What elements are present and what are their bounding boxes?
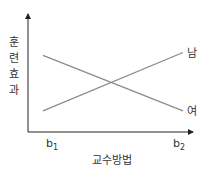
y-axis-label-char: 효 [9,68,19,81]
series-label: 여 [187,105,197,118]
y-axis-label-char: 훈 [9,36,19,49]
x-axis-label: 교수방법 [92,154,132,167]
y-axis-label-char: 련 [9,52,19,65]
y-axis-label: 훈련효과 [9,36,19,97]
y-axis-label-char: 과 [9,84,19,97]
x-tick-label: b1 [46,137,58,152]
series-label: 남 [187,47,197,60]
interaction-chart: 훈련효과 남여 b1b2 교수방법 [0,0,213,176]
x-tick-label: b2 [173,137,185,152]
